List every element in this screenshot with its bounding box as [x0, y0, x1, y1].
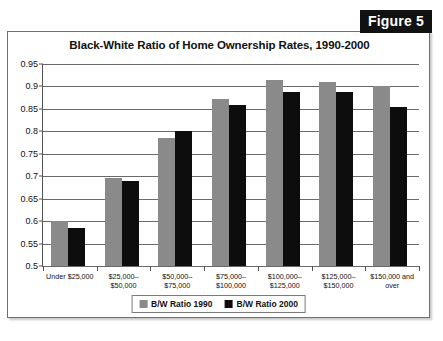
chart-title: Black-White Ratio of Home Ownership Rate…	[8, 39, 431, 51]
x-axis-label: $50,000–$75,000	[150, 272, 204, 290]
bar	[68, 228, 85, 266]
y-tick-label: 0.7	[25, 171, 38, 181]
y-tick-label: 0.85	[20, 104, 38, 114]
legend-label-2000: B/W Ratio 2000	[237, 299, 298, 309]
x-tick-mark	[365, 266, 366, 271]
x-axis-label: Under $25,000	[43, 272, 97, 281]
bar	[105, 178, 122, 266]
y-tick-label: 0.6	[25, 216, 38, 226]
y-tick-label: 0.95	[20, 59, 38, 69]
x-axis-label: $100,000– $125,000	[258, 272, 312, 290]
figure-badge: Figure 5	[360, 10, 432, 33]
bar	[51, 221, 68, 266]
bar	[158, 138, 175, 266]
legend-swatch-1990	[139, 300, 147, 308]
chart-card: Black-White Ratio of Home Ownership Rate…	[7, 31, 430, 318]
x-tick-mark	[312, 266, 313, 271]
legend-swatch-2000	[225, 300, 233, 308]
y-tick-label: 0.5	[25, 261, 38, 271]
x-axis-label: $150,000 and over	[365, 272, 419, 290]
y-tick-label: 0.8	[25, 126, 38, 136]
figure-container: Figure 5 Black-White Ratio of Home Owner…	[0, 0, 443, 341]
bar	[336, 92, 353, 266]
bar	[175, 131, 192, 266]
bars-layer	[43, 64, 419, 266]
bar	[266, 80, 283, 266]
x-tick-mark	[97, 266, 98, 271]
bar	[229, 105, 246, 266]
y-tick-label: 0.65	[20, 194, 38, 204]
bar	[283, 92, 300, 266]
bar	[212, 99, 229, 266]
legend-item-1990: B/W Ratio 1990	[139, 299, 212, 309]
legend-label-1990: B/W Ratio 1990	[151, 299, 212, 309]
legend-item-2000: B/W Ratio 2000	[225, 299, 298, 309]
x-axis-label: $75,000– $100,000	[204, 272, 258, 290]
x-axis-ticks	[43, 266, 419, 271]
x-tick-mark	[204, 266, 205, 271]
x-tick-mark	[258, 266, 259, 271]
bar	[122, 181, 139, 266]
x-tick-mark	[43, 266, 44, 271]
y-tick-label: 0.9	[25, 81, 38, 91]
plot-area: 0.950.90.850.80.750.70.650.60.550.5 Unde…	[42, 64, 419, 267]
bar	[373, 86, 390, 266]
x-tick-mark	[419, 266, 420, 271]
bar	[319, 82, 336, 266]
x-tick-mark	[150, 266, 151, 271]
x-axis-label: $25,000–$50,000	[97, 272, 151, 290]
bar	[390, 107, 407, 266]
y-tick-label: 0.55	[20, 239, 38, 249]
chart-legend: B/W Ratio 1990 B/W Ratio 2000	[131, 295, 306, 313]
x-axis-label: $125,000– $150,000	[312, 272, 366, 290]
y-tick-label: 0.75	[20, 149, 38, 159]
